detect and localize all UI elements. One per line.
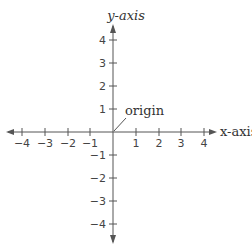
origin-label: origin	[125, 103, 165, 118]
x-tick-label: −4	[14, 137, 30, 150]
x-tick-label: 1	[133, 137, 140, 150]
x-tick-label: 2	[156, 137, 163, 150]
x-axis-right-arrow-icon	[209, 129, 217, 135]
x-tick-label: −3	[37, 137, 53, 150]
y-tick-label: 1	[99, 103, 106, 116]
x-tick-label: 4	[201, 137, 208, 150]
x-axis-left-arrow-icon	[6, 129, 14, 135]
origin-pointer-line	[114, 118, 126, 131]
y-axis-up-arrow-icon	[110, 24, 116, 33]
y-tick-label: −1	[90, 149, 106, 162]
x-tick-label: 3	[178, 137, 185, 150]
y-tick-label: 4	[99, 34, 106, 47]
y-tick-label: 2	[99, 80, 106, 93]
y-tick-label: 3	[99, 57, 106, 70]
y-tick-label: −4	[90, 218, 106, 231]
y-tick-label: −2	[90, 172, 106, 185]
x-axis-label: x-axis	[220, 124, 252, 139]
y-axis-label: y-axis	[106, 8, 145, 23]
x-tick-label: −2	[60, 137, 76, 150]
y-tick-label: −3	[90, 195, 106, 208]
coordinate-plane: −4 −3 −2 −1 1 2 3 4 4 3 2 1 −1 −2 −3 −4 …	[0, 0, 252, 246]
y-axis-down-arrow-icon	[110, 235, 116, 244]
